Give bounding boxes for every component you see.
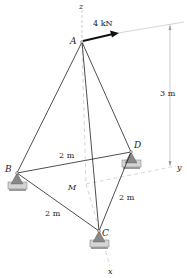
dimension-arrow-top [169,25,172,30]
dimension-arrow-bottom [169,161,172,166]
label-M: M [67,183,77,192]
x-axis [86,184,110,266]
force-line-extension [118,22,184,33]
force-arrow-shaft [83,34,113,41]
label-D: D [133,140,141,150]
label-x: x [108,267,113,276]
support-B [8,173,27,191]
label-z: z [78,2,84,11]
joint-C [98,230,101,233]
label-BC: 2 m [45,209,61,218]
joint-B [16,172,19,175]
label-CD: 2 m [119,193,135,202]
label-height: 3 m [160,89,176,98]
label-B: B [4,164,12,174]
label-C: C [102,228,109,238]
label-y: y [176,163,182,172]
joint-A [81,41,84,44]
force-arrow-head [110,31,119,38]
label-BD: 2 m [59,151,75,160]
edge-BC [17,173,99,231]
label-force: 4 kN [93,19,112,28]
joint-D [130,151,133,154]
leg-AD [82,42,131,152]
label-A: A [69,36,77,46]
edge-CD [99,152,131,231]
tripod-diagram: z A 4 kN 3 m B D C M y x 2 m 2 m 2 m [0,0,187,278]
